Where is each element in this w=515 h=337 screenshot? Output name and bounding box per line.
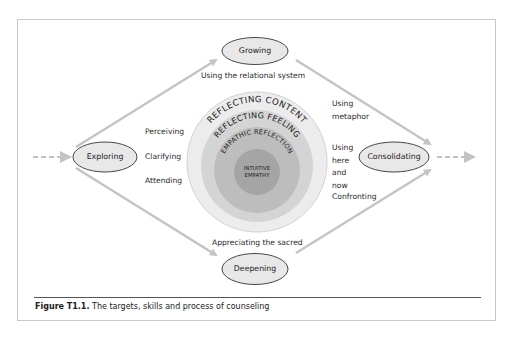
skill-perceiving: Perceiving [145,128,184,136]
figure-caption: Figure T1.1. The targets, skills and pro… [35,302,269,311]
core-label-line2: EMPATHY [245,172,271,178]
core-label-line1: INTUITIVE [244,165,271,171]
skill-confronting: Confronting [332,193,377,201]
caption-label: Figure T1.1. [35,302,89,311]
exit-dashed-arrow [437,151,476,163]
skill-clarifying: Clarifying [145,153,181,161]
caption-divider [34,297,481,298]
entry-dashed-arrow [33,151,72,163]
skill-using-here-and-now: Using here and now [332,142,364,192]
node-label-growing: Growing [239,47,271,55]
node-label-consolidating: Consolidating [367,153,420,161]
node-label-exploring: Exploring [87,153,124,161]
edge-label-relational-system: Using the relational system [201,72,305,80]
caption-text: The targets, skills and process of couns… [89,302,269,311]
node-label-deepening: Deepening [234,265,276,273]
skill-using-metaphor: Using metaphor [332,98,376,123]
concentric-rings: REFLECTING CONTENT REFLECTING FEELING EM… [187,92,327,232]
skill-attending: Attending [145,177,182,185]
edge-label-appreciating-sacred: Appreciating the sacred [212,239,303,247]
